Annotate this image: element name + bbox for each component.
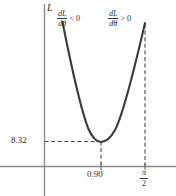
fraction-denominator-right: dθ xyxy=(108,19,118,28)
annotation-derivative-negative: dL dθ < 0 xyxy=(57,9,80,28)
fraction-dl-dtheta-left: dL dθ xyxy=(57,9,67,28)
x-tick-label-pi-over-2: π 2 xyxy=(140,168,148,189)
annotation-derivative-positive: dL dθ > 0 xyxy=(108,9,131,28)
fraction-denominator-left: dθ xyxy=(57,19,67,28)
relation-left: < 0 xyxy=(67,15,80,23)
pi-denominator: 2 xyxy=(140,179,148,189)
plot-canvas xyxy=(0,0,176,196)
relation-right: > 0 xyxy=(118,15,131,23)
fraction-dl-dtheta-right: dL dθ xyxy=(108,9,118,28)
y-axis-label: L xyxy=(47,3,53,13)
pi-numerator: π xyxy=(140,168,148,179)
fraction-numerator-left: dL xyxy=(57,9,67,19)
calculus-derivative-figure: L dL dθ < 0 dL dθ > 0 8.32 0.90 π 2 xyxy=(0,0,176,196)
curve-L-theta xyxy=(63,22,146,142)
fraction-numerator-right: dL xyxy=(108,9,118,19)
x-tick-label-0-90: 0.90 xyxy=(87,170,103,179)
y-tick-label-8-32: 8.32 xyxy=(11,136,27,145)
